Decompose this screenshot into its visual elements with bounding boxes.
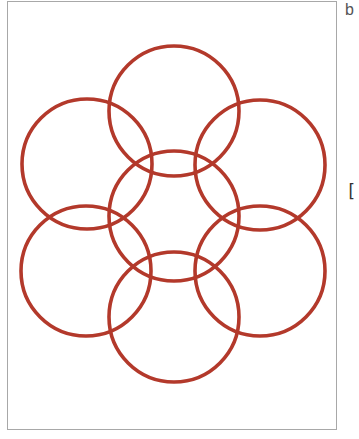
circle-lower-left xyxy=(21,206,151,336)
panel-label: b xyxy=(345,0,354,20)
circle-top xyxy=(109,46,239,176)
circle-group xyxy=(21,46,325,382)
circles-diagram xyxy=(0,0,359,439)
side-bracket-mark: [ xyxy=(346,181,356,201)
circle-bottom xyxy=(109,252,239,382)
circle-lower-right xyxy=(195,206,325,336)
